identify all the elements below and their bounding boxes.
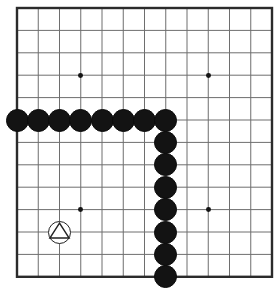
triangle-glyph: [50, 223, 69, 238]
